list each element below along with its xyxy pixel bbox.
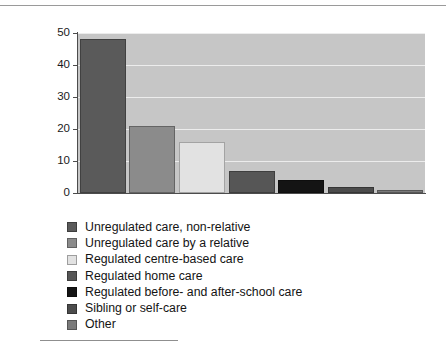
legend-item: Other (67, 317, 302, 333)
legend-swatch-icon (67, 238, 77, 248)
legend-swatch-icon (67, 320, 77, 330)
legend-swatch-icon (67, 304, 77, 314)
bar (229, 171, 275, 193)
legend-item: Regulated home care (67, 268, 302, 284)
y-tick-label: 40 (46, 59, 70, 70)
y-tick-mark (73, 33, 77, 34)
legend-item-label: Regulated home care (85, 270, 203, 283)
bar (80, 39, 126, 193)
y-tick-label: 50 (46, 27, 70, 38)
legend-item: Unregulated care by a relative (67, 235, 302, 251)
legend-item: Regulated before- and after-school care (67, 284, 302, 300)
legend-item-label: Unregulated care, non-relative (85, 221, 250, 234)
legend-swatch-icon (67, 287, 77, 297)
bar (179, 142, 225, 193)
legend-swatch-icon (67, 271, 77, 281)
bar-chart-figure: 50403020100 Unregulated care, non-relati… (0, 0, 446, 354)
y-tick-mark (73, 161, 77, 162)
y-tick-mark (73, 193, 77, 194)
y-tick-label: 0 (46, 187, 70, 198)
x-axis-line (77, 193, 426, 194)
y-tick-mark (73, 129, 77, 130)
legend-item-label: Regulated before- and after-school care (85, 286, 302, 299)
y-axis-line (77, 32, 78, 194)
legend-item-label: Sibling or self-care (85, 302, 187, 315)
y-tick-label: 20 (46, 123, 70, 134)
legend-item-label: Unregulated care by a relative (85, 237, 249, 250)
legend-item: Regulated centre-based care (67, 252, 302, 268)
legend-item-label: Other (85, 318, 116, 331)
y-tick-label: 10 (46, 155, 70, 166)
chart-legend: Unregulated care, non-relativeUnregulate… (67, 219, 302, 333)
legend-item-label: Regulated centre-based care (85, 253, 244, 266)
y-tick-label: 30 (46, 91, 70, 102)
bottom-divider (40, 340, 178, 341)
legend-item: Sibling or self-care (67, 300, 302, 316)
y-tick-mark (73, 65, 77, 66)
legend-swatch-icon (67, 222, 77, 232)
bar-series (78, 33, 425, 193)
legend-item: Unregulated care, non-relative (67, 219, 302, 235)
y-tick-mark (73, 97, 77, 98)
bar (129, 126, 175, 193)
legend-swatch-icon (67, 255, 77, 265)
bar (278, 180, 324, 193)
